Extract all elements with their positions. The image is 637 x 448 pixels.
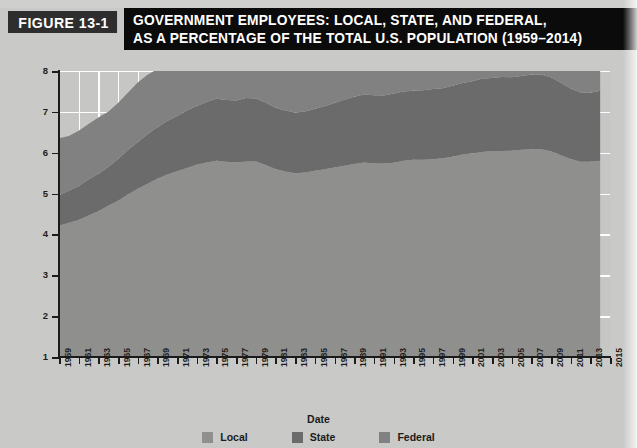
x-tick-label: 1985 — [319, 348, 329, 367]
figure-number-tag: FIGURE 13-1 — [8, 11, 117, 33]
y-tick-label: 7 — [20, 106, 48, 117]
x-tick-label: 2015 — [614, 348, 624, 367]
x-tick-mark — [216, 358, 218, 364]
stacked-area-series — [59, 71, 610, 357]
x-tick-label: 2001 — [476, 348, 486, 367]
x-tick-mark — [590, 358, 592, 364]
x-tick-label: 1997 — [437, 348, 447, 367]
x-tick-mark — [472, 358, 474, 364]
x-axis-title: Date — [0, 413, 637, 425]
x-tick-label: 1973 — [201, 348, 211, 367]
figure-page: FIGURE 13-1 GOVERNMENT EMPLOYEES: LOCAL,… — [0, 0, 637, 448]
y-tick-mark — [52, 112, 59, 114]
x-tick-mark — [118, 358, 120, 364]
x-tick-label: 1969 — [161, 348, 171, 367]
x-tick-label: 1995 — [417, 348, 427, 367]
x-tick-label: 1991 — [378, 348, 388, 367]
x-tick-mark — [157, 358, 159, 364]
x-tick-mark — [492, 358, 494, 364]
x-tick-mark — [551, 358, 553, 364]
figure-title-banner: FIGURE 13-1 GOVERNMENT EMPLOYEES: LOCAL,… — [0, 8, 637, 50]
x-tick-mark — [374, 358, 376, 364]
x-tick-mark — [177, 358, 179, 364]
y-tick-mark — [52, 71, 59, 73]
x-tick-label: 1961 — [83, 348, 93, 367]
x-tick-mark — [79, 358, 81, 364]
x-tick-mark — [315, 358, 317, 364]
x-tick-label: 1971 — [181, 348, 191, 367]
legend-swatch-icon — [379, 432, 390, 443]
x-tick-mark — [433, 358, 435, 364]
x-tick-label: 1977 — [240, 348, 250, 367]
x-tick-mark — [138, 358, 140, 364]
x-tick-mark — [531, 358, 533, 364]
x-tick-label: 1983 — [299, 348, 309, 367]
y-tick-label: 2 — [20, 310, 48, 321]
legend-label: State — [310, 431, 336, 443]
x-tick-label: 1975 — [220, 348, 230, 367]
legend-item-state[interactable]: State — [292, 431, 336, 443]
legend-item-federal[interactable]: Federal — [379, 431, 434, 443]
x-tick-mark — [571, 358, 573, 364]
x-tick-mark — [98, 358, 100, 364]
y-tick-mark — [52, 275, 59, 277]
y-tick-mark — [52, 194, 59, 196]
x-tick-mark — [354, 358, 356, 364]
x-tick-label: 2005 — [516, 348, 526, 367]
x-tick-label: 1967 — [142, 348, 152, 367]
x-tick-label: 1987 — [339, 348, 349, 367]
legend-swatch-icon — [202, 432, 213, 443]
x-tick-label: 1963 — [102, 348, 112, 367]
x-tick-mark — [275, 358, 277, 364]
y-tick-mark — [52, 357, 59, 359]
x-tick-label: 2009 — [555, 348, 565, 367]
x-tick-label: 1989 — [358, 348, 368, 367]
legend-label: Federal — [397, 431, 434, 443]
x-tick-mark — [453, 358, 455, 364]
plot-area — [59, 71, 610, 357]
x-tick-label: 1965 — [122, 348, 132, 367]
y-tick-mark — [52, 153, 59, 155]
x-tick-label: 2003 — [496, 348, 506, 367]
x-tick-mark — [335, 358, 337, 364]
x-tick-label: 2013 — [594, 348, 604, 367]
x-tick-mark — [236, 358, 238, 364]
legend-item-local[interactable]: Local — [202, 431, 247, 443]
y-tick-label: 4 — [20, 228, 48, 239]
y-tick-label: 6 — [20, 147, 48, 158]
chart-container: Percentage of Population 12345678 195919… — [0, 55, 637, 448]
x-tick-mark — [295, 358, 297, 364]
x-tick-label: 1993 — [398, 348, 408, 367]
page-top-edge — [0, 0, 637, 8]
x-tick-mark — [394, 358, 396, 364]
legend-swatch-icon — [292, 432, 303, 443]
x-tick-mark — [413, 358, 415, 364]
x-tick-label: 1959 — [63, 348, 73, 367]
figure-title-block: GOVERNMENT EMPLOYEES: LOCAL, STATE, AND … — [124, 8, 637, 50]
y-tick-mark — [52, 316, 59, 318]
x-tick-label: 1979 — [260, 348, 270, 367]
x-tick-mark — [512, 358, 514, 364]
y-tick-label: 8 — [20, 65, 48, 76]
x-tick-label: 2011 — [575, 348, 585, 367]
x-tick-label: 1999 — [457, 348, 467, 367]
x-tick-label: 2007 — [535, 348, 545, 367]
x-tick-mark — [610, 358, 612, 364]
x-tick-label: 1981 — [279, 348, 289, 367]
x-tick-mark — [197, 358, 199, 364]
figure-title-line-2: AS A PERCENTAGE OF THE TOTAL U.S. POPULA… — [133, 29, 602, 47]
y-tick-label: 1 — [20, 351, 48, 362]
y-tick-label: 5 — [20, 188, 48, 199]
y-tick-mark — [52, 234, 59, 236]
x-tick-mark — [59, 358, 61, 364]
y-tick-label: 3 — [20, 269, 48, 280]
chart-legend: LocalStateFederal — [0, 431, 637, 443]
legend-label: Local — [220, 431, 247, 443]
figure-tag-wrap: FIGURE 13-1 — [0, 8, 124, 50]
x-tick-mark — [256, 358, 258, 364]
figure-title-line-1: GOVERNMENT EMPLOYEES: LOCAL, STATE, AND … — [133, 11, 602, 29]
